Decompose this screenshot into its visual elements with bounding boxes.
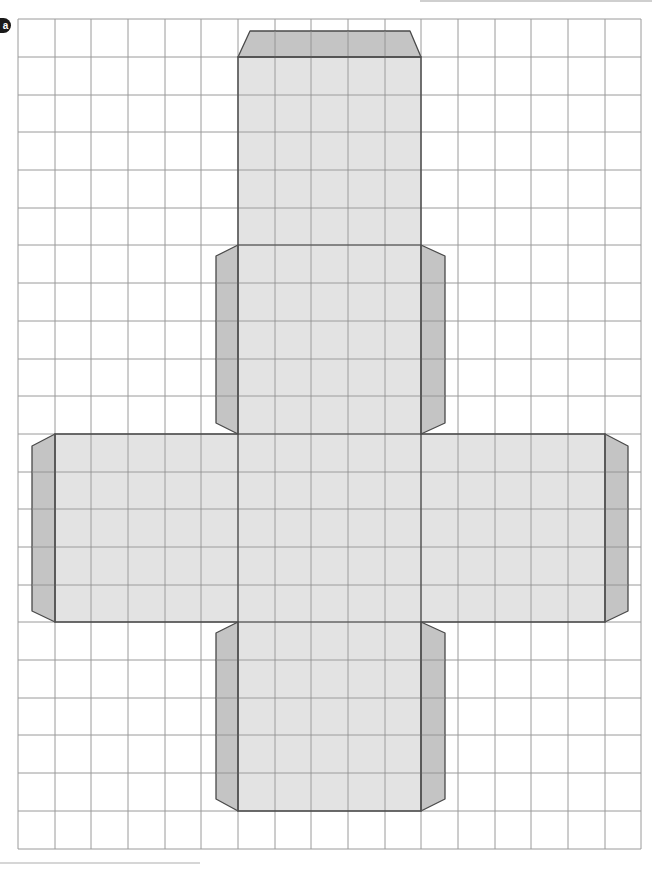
upper-left-tab: [216, 245, 238, 434]
far-left-tab: [32, 434, 55, 622]
cube-net-diagram: [0, 0, 652, 870]
right-face: [421, 434, 605, 622]
center-face: [238, 434, 421, 622]
lower-right-tab: [421, 622, 445, 811]
upper-middle-face: [238, 245, 421, 434]
upper-right-tab: [421, 245, 445, 434]
top-face: [238, 57, 421, 245]
left-face: [55, 434, 238, 622]
lower-left-tab: [216, 622, 238, 811]
bottom-face: [238, 622, 421, 811]
top-tab: [238, 31, 421, 57]
far-right-tab: [605, 434, 628, 622]
page-bottom-rule: [0, 862, 200, 864]
